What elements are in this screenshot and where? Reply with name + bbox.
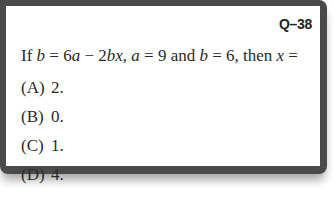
answer-options: (A)2. (B)0. (C)1. (D)4. xyxy=(21,78,64,194)
option-letter: (A) xyxy=(21,78,51,98)
var-a: a xyxy=(72,46,81,65)
option-value: 4. xyxy=(51,165,64,184)
stem-text: = 6, then xyxy=(208,46,277,65)
option-value: 2. xyxy=(51,78,64,97)
question-id: Q–38 xyxy=(279,16,312,32)
option-letter: (C) xyxy=(21,136,51,156)
question-card: Q–38 If b = 6a − 2bx, a = 9 and b = 6, t… xyxy=(0,0,327,174)
option-c[interactable]: (C)1. xyxy=(21,136,64,165)
var-x: x xyxy=(277,46,285,65)
option-a[interactable]: (A)2. xyxy=(21,78,64,107)
stem-text: If xyxy=(21,46,37,65)
question-card-body: Q–38 If b = 6a − 2bx, a = 9 and b = 6, t… xyxy=(6,6,320,166)
option-value: 0. xyxy=(51,107,64,126)
stem-text: = 6 xyxy=(45,46,72,65)
option-letter: (D) xyxy=(21,165,51,185)
var-a: a xyxy=(131,46,140,65)
option-d[interactable]: (D)4. xyxy=(21,165,64,194)
var-bx: bx xyxy=(107,46,123,65)
option-value: 1. xyxy=(51,136,64,155)
question-stem: If b = 6a − 2bx, a = 9 and b = 6, then x… xyxy=(21,46,298,66)
option-b[interactable]: (B)0. xyxy=(21,107,64,136)
var-b: b xyxy=(37,46,46,65)
stem-text: − 2 xyxy=(80,46,107,65)
stem-text: = 9 and xyxy=(140,46,200,65)
stem-text: = xyxy=(284,46,298,65)
var-b: b xyxy=(199,46,208,65)
option-letter: (B) xyxy=(21,107,51,127)
